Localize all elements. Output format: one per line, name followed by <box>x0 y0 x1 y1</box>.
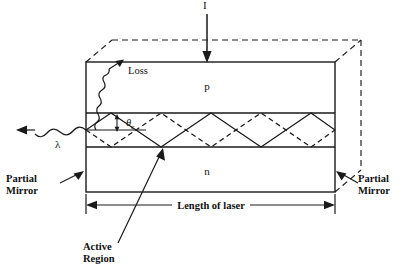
loss-label: Loss <box>128 65 148 76</box>
active-region-leader-line <box>118 155 160 243</box>
pm-left-arrowhead <box>74 171 84 180</box>
perspective-left-slant <box>86 40 112 62</box>
device-body-rect <box>86 62 335 192</box>
partial-mirror-left-label-line2: Mirror <box>6 185 38 196</box>
partial-mirror-right-label-line2: Mirror <box>358 185 390 196</box>
lambda-wave-path <box>35 127 86 137</box>
active-region-label-line2: Region <box>83 253 115 264</box>
partial-mirror-right-label-line1: Partial <box>358 173 389 184</box>
dim-arrowhead-left <box>86 201 97 209</box>
figure-canvas: θc I Loss λ p n Partial Mirror <box>0 0 404 275</box>
perspective-right-slant <box>335 40 361 62</box>
emitted-beam-wavy-arrow <box>16 126 86 137</box>
loss-arrowhead <box>115 60 124 68</box>
loss-wave-path <box>95 69 109 130</box>
critical-angle-label: θc <box>126 117 135 131</box>
wavelength-label: λ <box>55 138 61 150</box>
current-arrowhead <box>202 51 211 63</box>
active-region-leader <box>118 148 165 243</box>
three-d-perspective-outline <box>86 40 361 192</box>
partial-mirror-right-leader <box>336 171 358 183</box>
angle-arrowhead-down <box>115 127 120 132</box>
laser-body-outline <box>86 62 335 192</box>
partial-mirror-left-leader <box>60 171 84 183</box>
length-of-laser-label: Length of laser <box>177 200 245 211</box>
injection-current-arrow <box>202 14 211 63</box>
n-layer-label: n <box>204 165 210 177</box>
lambda-arrowhead <box>16 126 27 135</box>
current-label: I <box>203 0 207 11</box>
laser-diode-diagram: θc I Loss λ p n Partial Mirror <box>0 0 404 275</box>
partial-mirror-left-label-line1: Partial <box>6 173 37 184</box>
p-layer-label: p <box>204 80 210 92</box>
active-region-label-line1: Active <box>83 241 112 252</box>
pm-right-arrowhead <box>336 171 346 180</box>
dim-arrowhead-right <box>324 201 335 209</box>
